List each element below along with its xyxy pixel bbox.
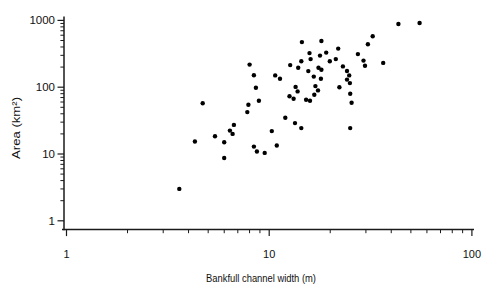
data-point <box>328 59 332 63</box>
data-point <box>245 110 249 114</box>
data-point <box>246 103 250 107</box>
data-point <box>349 101 353 105</box>
data-point <box>417 21 421 25</box>
data-point <box>371 34 375 38</box>
data-point <box>319 39 323 43</box>
data-point <box>345 77 349 81</box>
y-axis-ticks <box>58 20 65 220</box>
data-point <box>361 58 365 62</box>
data-point <box>283 116 287 120</box>
data-point <box>193 139 197 143</box>
data-point <box>177 187 181 191</box>
y-tick-label: 100 <box>36 81 55 93</box>
data-point <box>319 77 323 81</box>
x-axis-ticks <box>67 230 472 237</box>
data-point <box>201 101 205 105</box>
data-point <box>291 97 295 101</box>
data-point <box>348 126 352 130</box>
data-point <box>345 69 349 73</box>
data-point <box>341 64 345 68</box>
data-point <box>257 99 261 103</box>
data-point <box>356 52 360 56</box>
data-point <box>293 85 297 89</box>
y-axis-tick-labels: 1101001000 <box>29 14 55 226</box>
data-point <box>336 46 340 50</box>
x-tick-label: 1 <box>63 248 69 260</box>
data-point <box>232 123 236 127</box>
data-point <box>304 98 308 102</box>
data-point <box>381 61 385 65</box>
data-point <box>299 59 303 63</box>
x-tick-label: 100 <box>463 248 481 260</box>
x-axis-tick-labels: 110100 <box>63 248 481 260</box>
y-tick-label: 1000 <box>29 14 55 26</box>
data-point <box>300 40 304 44</box>
data-point <box>230 132 234 136</box>
x-tick-label: 10 <box>263 248 275 260</box>
data-point <box>278 77 282 81</box>
data-point <box>337 85 341 89</box>
data-point <box>295 89 299 93</box>
data-point <box>319 68 323 72</box>
scatter-chart: 110100 1101001000 Bankfull channel width… <box>0 0 494 294</box>
data-point <box>288 63 292 67</box>
data-point <box>347 73 351 77</box>
data-point <box>313 84 317 88</box>
data-point <box>270 129 274 133</box>
y-tick-label: 10 <box>42 148 55 160</box>
axes: 110100 1101001000 <box>29 14 481 259</box>
data-point <box>296 66 300 70</box>
data-point <box>396 22 400 26</box>
data-point <box>348 92 352 96</box>
data-point <box>273 73 277 77</box>
data-point <box>287 94 291 98</box>
data-point <box>263 151 267 155</box>
data-point <box>308 57 312 61</box>
data-point <box>255 149 259 153</box>
data-point <box>366 42 370 46</box>
y-tick-label: 1 <box>49 215 55 227</box>
data-point <box>252 73 256 77</box>
data-point <box>222 156 226 160</box>
figure: 110100 1101001000 Bankfull channel width… <box>0 0 494 294</box>
data-point <box>348 81 352 85</box>
data-point <box>222 140 226 144</box>
data-point <box>363 63 367 67</box>
data-point <box>247 62 251 66</box>
data-point <box>324 50 328 54</box>
data-point <box>299 126 303 130</box>
x-axis-title: Bankfull channel width (m) <box>206 272 316 284</box>
data-point <box>254 86 258 90</box>
data-point <box>312 93 316 97</box>
data-point <box>293 121 297 125</box>
data-point <box>275 143 279 147</box>
data-point <box>307 51 311 55</box>
data-point <box>318 53 322 57</box>
data-point <box>316 88 320 92</box>
data-point <box>312 74 316 78</box>
data-point <box>308 99 312 103</box>
y-axis-title: Area (km²) <box>10 97 22 159</box>
data-point <box>334 57 338 61</box>
data-point <box>252 144 256 148</box>
data-point <box>213 134 217 138</box>
data-points <box>177 21 422 191</box>
data-point <box>306 69 310 73</box>
